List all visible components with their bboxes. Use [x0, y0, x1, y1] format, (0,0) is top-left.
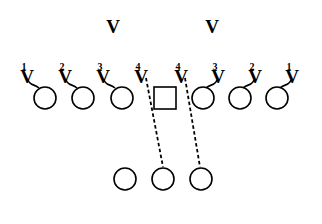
deep-defender-v: V: [205, 16, 219, 37]
back-circle: [190, 168, 212, 190]
offensive-line: [34, 87, 288, 109]
play-diagram: VV 1V2V3V4V4V3V2V1V: [0, 0, 322, 224]
line-defender-left-2: 2V: [58, 61, 77, 88]
backfield: [114, 168, 212, 190]
offensive-lineman-circle: [229, 87, 251, 109]
line-defenders: 1V2V3V4V4V3V2V1V: [20, 61, 299, 88]
deep-defenders: VV: [106, 16, 219, 37]
offensive-lineman-circle: [72, 87, 94, 109]
line-defender-left-3: 3V: [96, 61, 115, 88]
deep-defender-v: V: [106, 16, 120, 37]
back-circle: [114, 168, 136, 190]
line-defender-right-1: 1V: [280, 61, 299, 88]
dashed-route-line: [185, 78, 200, 167]
line-defender-right-3: 3V: [206, 61, 225, 88]
offensive-lineman-circle: [192, 87, 214, 109]
line-defender-left-1: 1V: [20, 61, 39, 88]
defender-v: V: [134, 66, 148, 87]
center-square: [154, 87, 176, 109]
back-circle: [152, 168, 174, 190]
offensive-lineman-circle: [111, 87, 133, 109]
offensive-lineman-circle: [266, 87, 288, 109]
defender-v: V: [174, 66, 188, 87]
offensive-lineman-circle: [34, 87, 56, 109]
line-defender-left-4: 4V: [134, 61, 148, 87]
line-defender-right-2: 2V: [243, 61, 262, 88]
line-defender-right-4: 4V: [174, 61, 188, 87]
